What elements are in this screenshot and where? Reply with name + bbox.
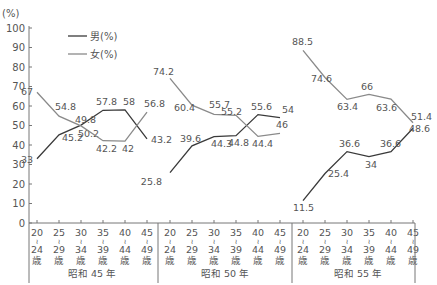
category-label-from: 45 bbox=[141, 227, 153, 238]
category-label-unit: 歳 bbox=[187, 255, 197, 266]
category-label-from: 45 bbox=[407, 227, 419, 238]
category-label-unit: 歳 bbox=[298, 255, 308, 266]
category-label-from: 20 bbox=[297, 227, 309, 238]
data-label: 74.6 bbox=[311, 73, 332, 84]
category-label-unit: 歳 bbox=[231, 255, 241, 266]
group-3: 11.525.436.63436.648.688.574.663.46663.6… bbox=[292, 36, 432, 212]
category-label-from: 20 bbox=[31, 227, 43, 238]
data-label: 74.2 bbox=[153, 66, 174, 77]
y-tick-label: 50 bbox=[12, 120, 25, 131]
category-label-to: 49 bbox=[141, 244, 153, 255]
category-label-unit: 歳 bbox=[364, 255, 374, 266]
category-label-to: 39 bbox=[363, 244, 375, 255]
category-label-unit: 歳 bbox=[209, 255, 219, 266]
category-label-from: 40 bbox=[385, 227, 397, 238]
data-label: 67 bbox=[21, 86, 33, 97]
data-label: 46 bbox=[276, 119, 288, 130]
data-label: 34 bbox=[365, 159, 377, 170]
category-label-from: 20 bbox=[164, 227, 176, 238]
category-label-to: 49 bbox=[274, 244, 286, 255]
category-label-from: 25 bbox=[319, 227, 331, 238]
legend-label: 女(%) bbox=[90, 48, 117, 60]
data-label: 49.8 bbox=[75, 114, 96, 125]
category-label-unit: 歳 bbox=[342, 255, 352, 266]
data-label: 58 bbox=[123, 96, 135, 107]
data-label: 48.6 bbox=[409, 123, 430, 134]
data-label: 25.8 bbox=[141, 176, 162, 187]
category-label-to: 24 bbox=[164, 244, 176, 255]
data-label: 51.4 bbox=[411, 111, 432, 122]
data-label: 56.8 bbox=[144, 98, 165, 109]
data-label: 55.6 bbox=[251, 101, 272, 112]
category-label-unit: 歳 bbox=[76, 255, 86, 266]
group-label: 昭和 50 年 bbox=[201, 268, 249, 279]
category-label-from: 45 bbox=[274, 227, 286, 238]
category-label-unit: 歳 bbox=[386, 255, 396, 266]
category-label-unit: 歳 bbox=[32, 255, 42, 266]
category-label-to: 39 bbox=[230, 244, 242, 255]
data-label: 50.2 bbox=[78, 128, 99, 139]
category-label-from: 40 bbox=[252, 227, 264, 238]
y-tick-label: 20 bbox=[12, 179, 25, 190]
category-label-unit: 歳 bbox=[253, 255, 263, 266]
category-label-from: 30 bbox=[208, 227, 220, 238]
data-label: 36.6 bbox=[339, 138, 360, 149]
y-tick-label: 90 bbox=[12, 42, 25, 53]
data-label: 54.8 bbox=[55, 101, 76, 112]
group-2: 25.839.644.344.855.65474.260.455.755.244… bbox=[141, 66, 294, 186]
data-label: 39.6 bbox=[180, 133, 201, 144]
category-label-unit: 歳 bbox=[275, 255, 285, 266]
category-label-unit: 歳 bbox=[408, 255, 418, 266]
category-label-from: 35 bbox=[363, 227, 375, 238]
data-label: 57.8 bbox=[96, 96, 117, 107]
data-label: 88.5 bbox=[292, 36, 313, 47]
group-label: 昭和 55 年 bbox=[334, 268, 382, 279]
category-label-to: 24 bbox=[297, 244, 309, 255]
data-label: 44.8 bbox=[228, 137, 249, 148]
data-label: 44.4 bbox=[252, 138, 273, 149]
line-chart: (%)0102030405060708090100 男(%)女(%) 3345.… bbox=[0, 0, 437, 285]
group-label: 昭和 45 年 bbox=[68, 268, 116, 279]
data-label: 63.6 bbox=[376, 102, 397, 113]
y-tick-label: 40 bbox=[12, 140, 25, 151]
legend-label: 男(%) bbox=[90, 31, 117, 42]
category-label-to: 44 bbox=[119, 244, 131, 255]
data-label: 25.4 bbox=[328, 168, 349, 179]
data-label: 54 bbox=[282, 104, 294, 115]
data-label: 66 bbox=[361, 81, 373, 92]
category-label-to: 34 bbox=[75, 244, 87, 255]
category-label-to: 44 bbox=[385, 244, 397, 255]
category-label-unit: 歳 bbox=[165, 255, 175, 266]
data-label: 11.5 bbox=[293, 202, 314, 213]
legend: 男(%)女(%) bbox=[68, 31, 117, 60]
category-label-to: 29 bbox=[53, 244, 65, 255]
category-label-unit: 歳 bbox=[142, 255, 152, 266]
category-label-to: 44 bbox=[252, 244, 264, 255]
y-tick-label: 80 bbox=[12, 62, 25, 73]
category-label-unit: 歳 bbox=[320, 255, 330, 266]
y-axis-unit-label: (%) bbox=[2, 8, 19, 19]
data-label: 55.2 bbox=[221, 106, 242, 117]
category-label-from: 35 bbox=[97, 227, 109, 238]
category-label-from: 30 bbox=[341, 227, 353, 238]
category-label-from: 25 bbox=[53, 227, 65, 238]
data-label: 63.4 bbox=[337, 101, 358, 112]
category-label-to: 34 bbox=[341, 244, 353, 255]
category-label-to: 29 bbox=[319, 244, 331, 255]
category-label-unit: 歳 bbox=[98, 255, 108, 266]
y-tick-label: 0 bbox=[19, 218, 25, 229]
plot-area: 3345.250.257.85843.26754.849.842.24256.8… bbox=[21, 36, 432, 212]
y-tick-label: 100 bbox=[6, 23, 25, 34]
y-tick-label: 60 bbox=[12, 101, 25, 112]
data-label: 33 bbox=[21, 154, 33, 165]
data-label: 60.4 bbox=[174, 102, 195, 113]
category-label-unit: 歳 bbox=[54, 255, 64, 266]
category-label-from: 35 bbox=[230, 227, 242, 238]
category-label-to: 49 bbox=[407, 244, 419, 255]
data-label: 42.2 bbox=[96, 143, 117, 154]
category-label-from: 25 bbox=[186, 227, 198, 238]
y-tick-label: 10 bbox=[12, 198, 25, 209]
category-label-to: 39 bbox=[97, 244, 109, 255]
category-label-from: 30 bbox=[75, 227, 87, 238]
data-label: 36.6 bbox=[380, 138, 401, 149]
